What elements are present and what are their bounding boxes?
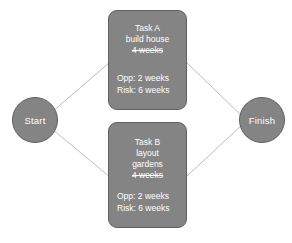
task-b-description-line2: gardens [109,159,186,170]
network-diagram-canvas: Start Finish Task A build house 4 weeks … [0,0,292,243]
task-a-duration: 4 weeks [109,45,186,56]
task-a-title: Task A [109,23,186,34]
task-a-meta-block: Opp: 2 weeks Risk: 6 weeks [117,73,181,96]
task-node-b[interactable]: Task B layout gardens 4 weeks Opp: 2 wee… [108,122,187,228]
task-b-meta-block: Opp: 2 weeks Risk: 6 weeks [117,191,181,214]
task-b-risk: Risk: 6 weeks [117,203,181,215]
connector-task-a-to-finish [186,62,243,117]
task-a-opportunity: Opp: 2 weeks [117,73,181,85]
task-a-risk: Risk: 6 weeks [117,85,181,97]
node-finish[interactable]: Finish [239,97,285,143]
connector-task-b-to-finish [186,124,243,177]
task-node-a[interactable]: Task A build house 4 weeks Opp: 2 weeks … [108,10,187,110]
node-finish-label: Finish [249,115,276,126]
node-start[interactable]: Start [12,97,58,143]
node-start-label: Start [24,115,45,126]
task-a-title-block: Task A build house 4 weeks [109,11,186,56]
task-b-description-line1: layout [109,148,186,159]
task-a-description: build house [109,34,186,45]
task-b-title: Task B [109,137,186,148]
connector-start-to-task-a [52,62,110,112]
task-b-duration: 4 weeks [109,170,186,181]
connector-start-to-task-b [52,129,110,177]
task-b-opportunity: Opp: 2 weeks [117,191,181,203]
task-b-title-block: Task B layout gardens 4 weeks [109,123,186,181]
